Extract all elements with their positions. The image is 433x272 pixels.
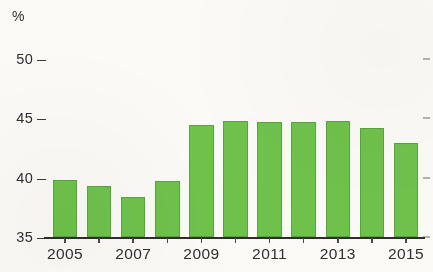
y-axis-tick-45: 45 xyxy=(0,110,46,126)
y-axis-tick-label: 50 xyxy=(16,51,33,67)
x-axis-tick-mark-2012 xyxy=(303,238,305,243)
bar-2015 xyxy=(394,143,419,237)
bar-chart: % 35404550 200520072009201120132015 xyxy=(0,0,433,272)
bar-2010 xyxy=(223,121,248,237)
right-axis-tick-mark xyxy=(423,59,430,60)
x-axis-tick-label-2009: 2009 xyxy=(183,245,219,263)
y-axis-tick-label: 40 xyxy=(16,170,33,186)
bar-2006 xyxy=(87,186,112,237)
bar-2012 xyxy=(291,122,316,237)
y-axis-tick-50: 50 xyxy=(0,51,46,67)
bar-2013 xyxy=(326,121,351,237)
y-axis-tick-label: 45 xyxy=(16,110,33,126)
x-axis-tick-label-2015: 2015 xyxy=(388,245,424,263)
x-axis-tick-mark-2015 xyxy=(405,238,407,243)
x-axis-tick-mark-2007 xyxy=(132,238,134,243)
bar-2009 xyxy=(189,125,214,237)
right-axis-tick-mark xyxy=(423,177,430,178)
y-axis-tick-label: 35 xyxy=(16,229,33,245)
bar-2014 xyxy=(360,128,385,237)
bar-2005 xyxy=(53,180,78,237)
y-axis-tick-mark xyxy=(37,119,46,120)
y-axis-tick-40: 40 xyxy=(0,170,46,186)
x-axis-tick-mark-2014 xyxy=(371,238,373,243)
x-axis-tick-label-2005: 2005 xyxy=(47,245,83,263)
y-axis-tick-mark xyxy=(37,60,46,61)
bar-series-group xyxy=(48,0,423,239)
x-axis-tick-mark-2005 xyxy=(64,238,66,243)
x-axis-tick-mark-2011 xyxy=(269,238,271,243)
bar-2007 xyxy=(121,197,146,237)
x-axis-tick-mark-2010 xyxy=(235,238,237,243)
right-axis-tick-mark xyxy=(423,118,430,119)
y-axis-tick-mark xyxy=(37,179,46,180)
x-axis-tick-mark-2009 xyxy=(201,238,203,243)
bar-2008 xyxy=(155,181,180,237)
x-axis-tick-label-2007: 2007 xyxy=(115,245,151,263)
x-axis-tick-mark-2013 xyxy=(337,238,339,243)
x-axis-tick-label-2011: 2011 xyxy=(252,245,287,263)
y-axis-tick-35: 35 xyxy=(0,229,46,245)
y-axis-unit-label: % xyxy=(12,8,25,24)
x-axis-tick-label-2013: 2013 xyxy=(320,245,356,263)
bar-2011 xyxy=(257,122,282,237)
x-axis-tick-mark-2006 xyxy=(98,238,100,243)
x-axis-tick-mark-2008 xyxy=(167,238,169,243)
